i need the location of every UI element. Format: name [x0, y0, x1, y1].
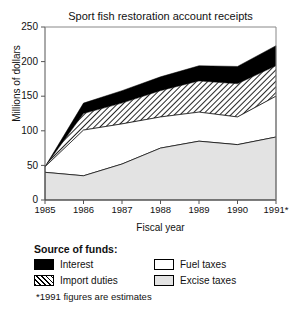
x-axis-label: Fiscal year	[45, 222, 276, 233]
legend-item-excise-taxes: Excise taxes	[154, 274, 236, 287]
legend-footnote: *1991 figures are estimates	[34, 291, 284, 302]
chart-figure: Sport fish restoration account receipts …	[0, 0, 302, 322]
plot-area	[0, 0, 302, 210]
stacked-areas	[45, 46, 276, 200]
x-tick-1987: 1987	[102, 205, 142, 215]
legend-label-excise-taxes: Excise taxes	[180, 275, 236, 286]
black-swatch-icon	[34, 259, 54, 270]
legend-item-fuel-taxes: Fuel taxes	[154, 258, 236, 271]
legend-item-import-duties: Import duties	[34, 274, 138, 287]
x-tick-1988: 1988	[141, 205, 181, 215]
chart-legend: Source of funds: Interest Import duties …	[34, 243, 284, 302]
gray-swatch-icon	[154, 275, 174, 286]
white-swatch-icon	[154, 259, 174, 270]
legend-title: Source of funds:	[34, 243, 284, 255]
x-tick-1990: 1990	[218, 205, 258, 215]
x-tick-1989: 1989	[179, 205, 219, 215]
x-tick-1991-est: 1991*	[256, 205, 296, 215]
legend-label-import-duties: Import duties	[60, 275, 118, 286]
legend-item-interest: Interest	[34, 258, 138, 271]
x-tick-1986: 1986	[64, 205, 104, 215]
legend-label-fuel-taxes: Fuel taxes	[180, 259, 226, 270]
x-tick-1985: 1985	[25, 205, 65, 215]
y-tick-marks	[41, 27, 45, 200]
hatched-swatch-icon	[34, 275, 54, 286]
legend-label-interest: Interest	[60, 259, 93, 270]
